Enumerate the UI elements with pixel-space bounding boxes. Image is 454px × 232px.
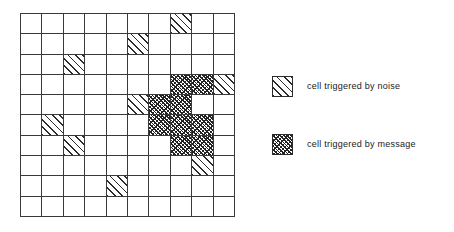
grid-cell-empty bbox=[42, 136, 63, 156]
grid-cell-empty bbox=[64, 95, 85, 115]
grid-cell-empty bbox=[42, 156, 63, 176]
grid-cell-noise bbox=[64, 55, 85, 75]
grid-cell-empty bbox=[21, 156, 42, 176]
grid-cell-empty bbox=[128, 115, 149, 135]
grid-cell-empty bbox=[85, 34, 106, 54]
grid-cell-empty bbox=[171, 55, 192, 75]
grid-cell-empty bbox=[149, 156, 170, 176]
grid-cell-empty bbox=[21, 75, 42, 95]
grid-cell-message bbox=[171, 115, 192, 135]
grid-cell-empty bbox=[149, 55, 170, 75]
grid-cell-empty bbox=[85, 176, 106, 196]
grid-cell-empty bbox=[128, 156, 149, 176]
legend-item-message: cell triggered by message bbox=[272, 133, 416, 155]
grid-cell-empty bbox=[107, 14, 128, 34]
grid-cell-empty bbox=[85, 75, 106, 95]
legend-swatch-message-icon bbox=[272, 134, 293, 155]
grid-cell-noise bbox=[171, 14, 192, 34]
grid-cell-empty bbox=[42, 75, 63, 95]
grid-cell-empty bbox=[64, 14, 85, 34]
grid-cell-empty bbox=[21, 14, 42, 34]
grid-cell-noise bbox=[128, 95, 149, 115]
grid-panel bbox=[20, 13, 235, 217]
grid-cell-empty bbox=[107, 136, 128, 156]
grid-cell-empty bbox=[21, 55, 42, 75]
grid-cell-empty bbox=[149, 34, 170, 54]
grid-cell-empty bbox=[107, 156, 128, 176]
grid-cell-empty bbox=[85, 197, 106, 217]
grid-cell-empty bbox=[149, 197, 170, 217]
grid-cell-empty bbox=[214, 55, 235, 75]
grid-cell-message bbox=[192, 115, 213, 135]
grid-cell-empty bbox=[192, 55, 213, 75]
grid-cell-empty bbox=[128, 176, 149, 196]
grid-cell-empty bbox=[42, 197, 63, 217]
grid-cell-empty bbox=[107, 115, 128, 135]
grid-cell-empty bbox=[107, 197, 128, 217]
grid-cell-message bbox=[171, 95, 192, 115]
grid-cell-empty bbox=[128, 75, 149, 95]
grid-cell-message bbox=[192, 136, 213, 156]
grid-cell-message bbox=[192, 75, 213, 95]
grid-cell-empty bbox=[21, 115, 42, 135]
grid-cell-noise bbox=[42, 115, 63, 135]
grid-cell-empty bbox=[85, 55, 106, 75]
grid-cell-empty bbox=[64, 115, 85, 135]
grid-cell-noise bbox=[214, 75, 235, 95]
grid-cell-empty bbox=[64, 34, 85, 54]
grid-cell-empty bbox=[192, 197, 213, 217]
grid-cell-empty bbox=[192, 14, 213, 34]
grid-cell-empty bbox=[214, 115, 235, 135]
grid-cell-empty bbox=[214, 14, 235, 34]
grid-cell-empty bbox=[85, 115, 106, 135]
grid-cell-noise bbox=[64, 136, 85, 156]
grid-cell-empty bbox=[64, 75, 85, 95]
figure-cellular-grid-diagram: cell triggered by noise cell triggered b… bbox=[0, 0, 454, 232]
grid-cell-empty bbox=[171, 34, 192, 54]
grid-cell-message bbox=[171, 75, 192, 95]
grid-cell-empty bbox=[42, 34, 63, 54]
grid-cell-empty bbox=[171, 156, 192, 176]
grid-cell-empty bbox=[21, 176, 42, 196]
grid-cell-message bbox=[149, 115, 170, 135]
grid-cell-empty bbox=[149, 136, 170, 156]
grid-cell-message bbox=[171, 136, 192, 156]
grid-cell-empty bbox=[214, 34, 235, 54]
legend-item-noise: cell triggered by noise bbox=[272, 75, 400, 97]
grid-cell-empty bbox=[128, 14, 149, 34]
grid-cell-empty bbox=[149, 75, 170, 95]
grid-cell-empty bbox=[21, 34, 42, 54]
grid-cell-empty bbox=[64, 197, 85, 217]
grid-cell-empty bbox=[42, 95, 63, 115]
legend-label-message: cell triggered by message bbox=[307, 140, 416, 149]
grid-cell-empty bbox=[107, 34, 128, 54]
grid-cell-empty bbox=[214, 95, 235, 115]
legend: cell triggered by noise cell triggered b… bbox=[272, 70, 452, 166]
grid-cell-empty bbox=[64, 156, 85, 176]
grid-cell-empty bbox=[21, 197, 42, 217]
grid-cell-empty bbox=[107, 95, 128, 115]
grid-cell-empty bbox=[214, 197, 235, 217]
grid-cell-empty bbox=[171, 176, 192, 196]
grid-cell-empty bbox=[149, 176, 170, 196]
grid-cell-empty bbox=[171, 197, 192, 217]
grid-cell-empty bbox=[85, 136, 106, 156]
grid-cell-empty bbox=[64, 176, 85, 196]
grid-cell-noise bbox=[128, 34, 149, 54]
grid-cell-empty bbox=[42, 176, 63, 196]
grid-cell-empty bbox=[85, 95, 106, 115]
grid-cell-empty bbox=[85, 156, 106, 176]
legend-swatch-noise-icon bbox=[272, 76, 293, 97]
grid-cell-noise bbox=[107, 176, 128, 196]
grid-cell-empty bbox=[128, 136, 149, 156]
grid-cell-empty bbox=[192, 176, 213, 196]
grid-cell-message bbox=[149, 95, 170, 115]
grid-cell-empty bbox=[214, 136, 235, 156]
grid-cell-empty bbox=[192, 95, 213, 115]
grid-cell-empty bbox=[42, 55, 63, 75]
grid-cell-empty bbox=[85, 14, 106, 34]
grid-cell-empty bbox=[214, 156, 235, 176]
grid-cell-empty bbox=[107, 55, 128, 75]
grid-cell-empty bbox=[42, 14, 63, 34]
grid-cell-empty bbox=[149, 14, 170, 34]
